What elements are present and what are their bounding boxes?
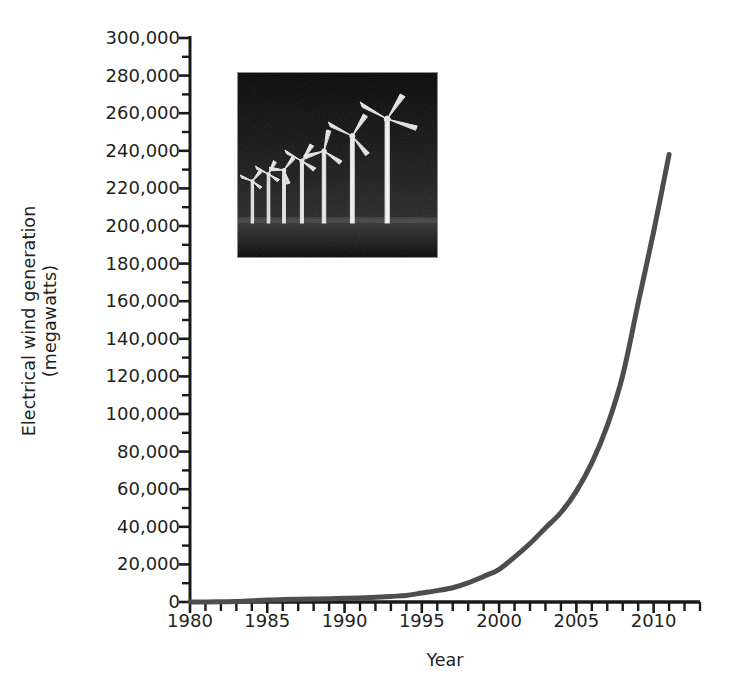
wind-turbine-farm-illustration bbox=[238, 73, 438, 258]
wind-turbine-farm-photo bbox=[237, 72, 438, 258]
wind-generation-chart-figure: Electrical wind generation(megawatts) 02… bbox=[0, 0, 740, 694]
